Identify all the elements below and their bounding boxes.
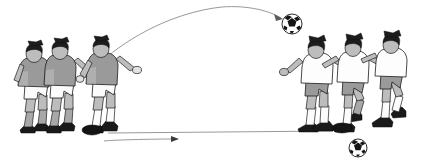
ball-grounded — [349, 139, 367, 157]
sock-right — [320, 105, 329, 123]
oval-ball-left — [82, 125, 102, 135]
sock-left — [24, 110, 34, 127]
sock-raised — [353, 99, 364, 115]
lofted-pass-curve — [101, 7, 281, 62]
sock-kicking — [106, 106, 115, 122]
left-player-kicker — [76, 35, 142, 133]
soccer-scene-svg — [0, 0, 433, 161]
ground-pass-line — [104, 139, 176, 141]
hair-top — [384, 30, 401, 37]
sock-standing — [343, 106, 352, 124]
hair-top — [309, 35, 326, 42]
hair-top — [28, 40, 43, 46]
lofted-pass-trajectory — [101, 7, 283, 62]
sock-right — [64, 107, 73, 123]
ball-lofted — [282, 14, 302, 34]
ground-pass-trajectory — [104, 136, 179, 142]
sock-left — [306, 107, 316, 125]
sock-front — [381, 100, 390, 118]
hand-left — [280, 68, 289, 75]
sock-left — [50, 109, 60, 126]
left-player-group — [14, 35, 142, 135]
ground-pass-arrowhead — [171, 136, 179, 142]
arm-right — [116, 56, 135, 71]
hand-right — [133, 66, 142, 73]
hand-left — [76, 76, 84, 83]
left-player-middle — [44, 37, 98, 133]
right-player-leading — [280, 35, 348, 132]
sock-plant — [92, 108, 102, 126]
sock-right — [38, 108, 47, 124]
hair-top — [54, 37, 69, 43]
hair-top — [346, 33, 363, 40]
right-player-group — [280, 30, 408, 133]
lofted-pass-arrowhead — [274, 14, 283, 21]
jersey-shading — [45, 69, 54, 85]
illustration-canvas — [0, 0, 433, 161]
hair-top — [94, 35, 109, 41]
oval-ball-right — [332, 123, 352, 133]
